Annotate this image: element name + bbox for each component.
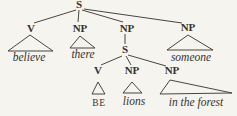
- triangle-be: [92, 82, 105, 94]
- node-np-forest: NP: [165, 64, 180, 76]
- word-lions: lions: [123, 95, 146, 107]
- syntax-tree-canvas: S V NP NP NP S V NP NP believe there som…: [0, 0, 237, 116]
- node-np-lions: NP: [125, 64, 140, 76]
- node-root-s: S: [76, 0, 82, 10]
- node-np-someone: NP: [181, 21, 196, 33]
- edge-embedded-s-to-v: [101, 56, 122, 65]
- triangle-in-the-forest: [160, 80, 232, 94]
- edge-s-to-np-there: [78, 10, 79, 22]
- node-v-be: V: [94, 64, 102, 76]
- edge-s-to-np-someone: [84, 9, 182, 23]
- triangle-believe: [8, 35, 53, 51]
- triangle-someone: [167, 35, 213, 50]
- word-there: there: [71, 48, 94, 60]
- triangle-there: [70, 36, 95, 48]
- syntax-tree-figure: S V NP NP NP S V NP NP believe there som…: [0, 0, 237, 116]
- edge-s-to-v: [34, 10, 76, 23]
- word-be: BE: [92, 98, 105, 108]
- word-someone: someone: [171, 51, 211, 63]
- triangle-lions: [123, 82, 142, 93]
- word-believe: believe: [13, 51, 46, 63]
- node-np-embedded: NP: [120, 22, 135, 34]
- node-np-there: NP: [73, 22, 88, 34]
- node-v-believe: V: [27, 22, 35, 34]
- node-embedded-s: S: [122, 43, 128, 55]
- word-in-the-forest: in the forest: [169, 96, 224, 109]
